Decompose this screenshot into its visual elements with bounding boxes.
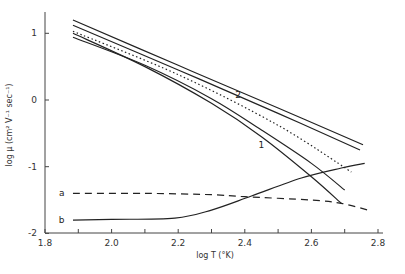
y-tick-label: 1	[31, 28, 37, 38]
x-tick-label: 2.2	[171, 238, 185, 248]
chart-container: 1.82.02.22.42.62.810-1-2 21ab log T (°K)…	[0, 0, 405, 274]
y-axis-label: log μ (cm² V⁻¹ sec⁻¹)	[5, 84, 14, 167]
x-tick-label: 2.0	[104, 238, 119, 248]
series-line-1-upper	[73, 37, 345, 190]
x-tick-label: 2.4	[238, 238, 253, 248]
annotation-label: a	[59, 188, 65, 198]
annotation-label: 2	[235, 90, 241, 100]
y-tick-label: -2	[28, 228, 37, 238]
x-tick-label: 1.8	[38, 238, 53, 248]
y-tick-label: -1	[28, 162, 37, 172]
series-line-2-upper	[73, 20, 363, 145]
annotations-group: 21ab	[59, 90, 265, 225]
series-line-2-lower	[73, 25, 360, 150]
series-group	[73, 20, 368, 220]
series-line-b	[73, 163, 365, 220]
x-tick-label: 2.6	[304, 238, 319, 248]
annotation-label: b	[59, 215, 65, 225]
annotation-label: 1	[259, 140, 265, 150]
x-tick-label: 2.8	[371, 238, 386, 248]
axes: 1.82.02.22.42.62.810-1-2	[28, 12, 385, 248]
x-axis-label: log T (°K)	[196, 251, 234, 260]
mobility-vs-temperature-chart: 1.82.02.22.42.62.810-1-2 21ab log T (°K)…	[0, 0, 405, 274]
y-tick-label: 0	[31, 95, 37, 105]
